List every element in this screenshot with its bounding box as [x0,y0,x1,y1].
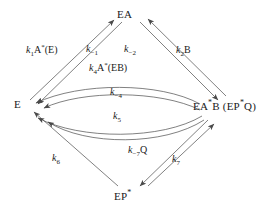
rate-km2-sub: −2 [128,49,135,57]
node-ea-label: EA [117,8,132,20]
node-ep-star: EP* [114,190,131,202]
node-ep-star-part1: EP [114,190,127,202]
rate-km7-tail: Q [140,144,147,155]
node-e: E [14,98,21,110]
rate-k4-end: (EB) [108,62,127,73]
rate-label-k2: k2B [176,44,191,55]
rate-label-k4: k4A*(EB) [89,62,127,73]
arrow-ea-to-easb [140,22,218,100]
rate-k1-end: (E) [45,44,58,55]
node-ea-star-b-part1: EA [193,100,208,112]
rate-km1-sub: −1 [90,49,97,57]
rate-label-k1: k1A*(E) [26,44,57,55]
node-ea-star-b-part2: B (EP [212,100,240,112]
arrow-easb-to-ea [148,19,226,96]
rate-km4-sub: −4 [114,92,121,100]
rate-k5-sub: 5 [117,116,121,124]
rate-label-k-minus-2: k−2 [124,43,136,54]
rate-label-k5: k5 [113,110,121,121]
rate-k6-sub: 6 [56,158,60,166]
rate-label-k-minus-1: k−1 [86,43,98,54]
rate-k7-sub: 7 [176,159,180,167]
rate-km7-sub: −7 [132,150,139,158]
arrow-easb-to-e-upper2 [44,95,200,110]
rate-label-k-minus-7: k−7Q [128,144,147,155]
node-ea-star-b: EA*B (EP*Q) [193,100,256,112]
rate-label-k6: k6 [52,152,60,163]
arrow-eps-to-e [34,112,118,186]
node-e-label: E [14,98,21,110]
arrow-easb-to-e-lower2 [48,120,204,140]
arrow-eps-to-easb [148,124,214,186]
rate-label-k7: k7 [172,153,180,164]
node-ea: EA [117,8,132,20]
node-ep-star-star: * [127,188,131,197]
reaction-scheme-figure: EA E EA*B (EP*Q) EP* k1A*(E) k−1 k−2 k2B… [0,0,268,211]
node-ea-star-b-part3: Q) [244,100,256,112]
rate-label-k-minus-4: k−4 [110,86,122,97]
rate-k2-tail: B [184,44,191,55]
